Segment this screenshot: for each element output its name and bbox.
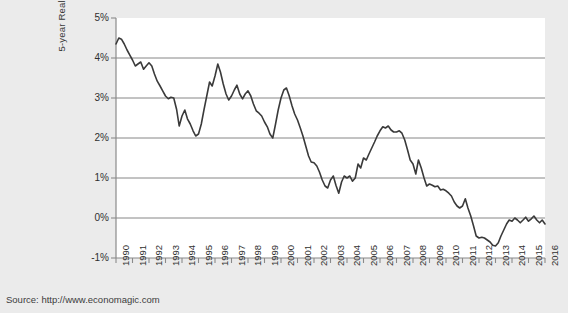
x-tick-label: 2004 xyxy=(351,245,362,266)
x-tick-label: 1995 xyxy=(203,245,214,266)
x-tick-label: 1993 xyxy=(170,245,181,266)
x-tick-label: 2008 xyxy=(417,245,428,266)
x-tick-label: 1992 xyxy=(153,245,164,266)
x-tick-label: 1998 xyxy=(252,245,263,266)
x-tick-label: 2016 xyxy=(549,245,560,266)
y-tick-label: 2% xyxy=(79,132,109,143)
y-tick-label: 1% xyxy=(79,172,109,183)
plot-area-wrapper xyxy=(0,0,568,313)
y-tick-label: 3% xyxy=(79,92,109,103)
x-tick-label: 2014 xyxy=(516,245,527,266)
x-tick-label: 2001 xyxy=(302,245,313,266)
x-tick-label: 2013 xyxy=(500,245,511,266)
x-tick-label: 1996 xyxy=(219,245,230,266)
source-note: Source: http://www.economagic.com xyxy=(6,294,160,305)
x-tick-label: 2003 xyxy=(335,245,346,266)
x-tick-label: 1990 xyxy=(120,245,131,266)
x-tick-label: 1999 xyxy=(269,245,280,266)
x-tick-label: 1997 xyxy=(236,245,247,266)
x-tick-label: 2011 xyxy=(467,246,478,266)
x-tick-label: 2012 xyxy=(483,245,494,266)
interest-rate-figure: 5-year Real Interest Rate Source: http:/… xyxy=(0,0,568,313)
x-tick-label: 2015 xyxy=(533,245,544,266)
x-tick-label: 2007 xyxy=(401,245,412,266)
x-tick-label: 2002 xyxy=(318,245,329,266)
x-tick-label: 1991 xyxy=(137,245,148,266)
x-tick-label: 2010 xyxy=(450,245,461,266)
line-chart xyxy=(0,0,568,313)
x-tick-label: 2005 xyxy=(368,245,379,266)
y-tick-label: 4% xyxy=(79,52,109,63)
x-tick-label: 2009 xyxy=(434,245,445,266)
x-tick-label: 2006 xyxy=(384,245,395,266)
y-tick-label: 5% xyxy=(79,12,109,23)
y-tick-label: 0% xyxy=(79,212,109,223)
x-tick-label: 2000 xyxy=(285,245,296,266)
x-tick-label: 1994 xyxy=(186,245,197,266)
y-tick-label: -1% xyxy=(79,252,109,263)
